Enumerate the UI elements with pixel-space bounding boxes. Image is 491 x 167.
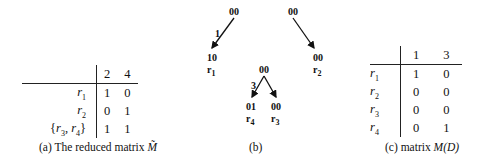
matrix-md-table: 1 3 r1 1 0 r2 0 0 r3 0 0 r4 0 1 xyxy=(370,46,462,137)
cell: 0 xyxy=(401,101,432,119)
column-header: 3 xyxy=(431,46,461,65)
tree3-right-leaf-label: r3 xyxy=(271,113,279,127)
cell: 1 xyxy=(401,65,432,84)
cell: 0 xyxy=(401,83,432,101)
tree2-root-node: 00 xyxy=(288,6,298,17)
column-header: 1 xyxy=(401,46,432,65)
tree3-left-node: 01 xyxy=(246,101,256,112)
row-label: r1 xyxy=(370,65,401,84)
tree1-edge-label: 1 xyxy=(215,28,220,39)
panel-c-matrix: 1 3 r1 1 0 r2 0 0 r3 0 0 r4 0 1 xyxy=(370,46,462,137)
tree3-right-node: 00 xyxy=(271,101,281,112)
tree1-child-node: 10 xyxy=(207,52,217,63)
cell: 1 xyxy=(431,119,461,137)
table-row: r3 0 0 xyxy=(370,101,462,119)
table-header-row: 1 3 xyxy=(370,46,462,65)
panel-b-caption: (b) xyxy=(249,141,262,153)
table-row: r1 1 0 xyxy=(370,65,462,84)
cell: 0 xyxy=(431,101,461,119)
cell: 0 xyxy=(401,119,432,137)
cell: 0 xyxy=(431,83,461,101)
tree3-root-node: 00 xyxy=(259,64,269,75)
row-label: r4 xyxy=(370,119,401,137)
tree1-root-node: 00 xyxy=(229,6,239,17)
tree3-edge-label: 3 xyxy=(251,80,256,91)
tree3-left-leaf-label: r4 xyxy=(246,113,254,127)
panel-c-caption: (c) matrix M(D) xyxy=(385,141,459,153)
row-label: r2 xyxy=(370,83,401,101)
table-row: r4 0 1 xyxy=(370,119,462,137)
table-row: r2 0 0 xyxy=(370,83,462,101)
tree2-child-node: 00 xyxy=(313,52,323,63)
corner-cell xyxy=(370,46,401,65)
tree2-leaf-label: r2 xyxy=(313,64,321,78)
row-label: r3 xyxy=(370,101,401,119)
tree1-leaf-label: r1 xyxy=(207,64,215,78)
cell: 0 xyxy=(431,65,461,84)
